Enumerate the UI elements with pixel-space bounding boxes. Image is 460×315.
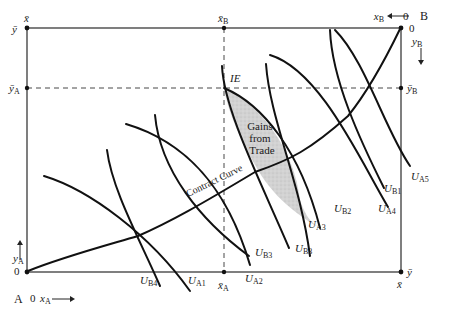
bottom-right-y-bar-label: ȳ	[406, 266, 413, 278]
x-a-axis-label: xA	[39, 292, 51, 306]
ub2-label: UB2	[334, 202, 351, 216]
origin-a-zero-x: 0	[30, 292, 36, 304]
ub3a-label: UB3	[255, 246, 272, 260]
y-bar-b-label: ȳB	[406, 82, 417, 96]
edgeworth-box-diagram: A 0 0 xA yA B 0 0 xB yB ȳ x̄ x̄ ȳ x̄B x̄…	[0, 0, 460, 315]
origin-a-zero-y: 0	[14, 265, 20, 277]
initial-endowment-label: IE	[229, 72, 241, 84]
indifference-curve-ua5	[335, 30, 410, 166]
indifference-curve-ua1	[44, 176, 190, 291]
origin-b-label: B	[420, 9, 428, 23]
bottom-right-corner-dot	[399, 270, 404, 275]
indifference-curve-ub4	[107, 150, 160, 286]
y-bar-b-dot	[399, 86, 403, 90]
top-left-corner-dot	[25, 26, 30, 31]
top-left-y-bar-label: ȳ	[11, 23, 18, 35]
ua2-label: UA2	[245, 272, 263, 286]
top-left-x-bar-label: x̄	[23, 12, 29, 24]
x-bar-b-label: x̄B	[217, 12, 228, 26]
y-bar-a-dot	[25, 86, 29, 90]
ub3b-label: UB3	[295, 242, 312, 256]
y-b-arrow-icon	[418, 48, 424, 65]
origin-a-label: A	[14, 292, 23, 306]
ua1-label: UA1	[188, 274, 206, 288]
origin-a-dot	[25, 270, 30, 275]
y-a-axis-label: yA	[12, 252, 24, 266]
origin-b-zero-x: 0	[403, 10, 409, 22]
x-bar-b-dot	[222, 26, 226, 30]
x-a-arrow-icon	[52, 296, 75, 302]
indifference-curve-ub1	[330, 30, 384, 188]
ub1-label: UB1	[384, 182, 401, 196]
y-bar-a-label: ȳA	[8, 82, 20, 96]
edgeworth-box-frame	[27, 28, 401, 272]
x-bar-a-dot	[222, 270, 226, 274]
x-bar-a-label: x̄A	[217, 279, 229, 293]
origin-b-dot	[399, 26, 404, 31]
gains-label-line-1: Gains	[247, 120, 273, 132]
gains-label-line-2: from	[249, 132, 271, 144]
ua5-label: UA5	[411, 170, 429, 184]
bottom-right-x-bar-label: x̄	[396, 278, 402, 290]
origin-b-zero-y: 0	[409, 22, 415, 34]
gains-label-line-3: Trade	[249, 144, 274, 156]
contract-curve-label: Contract Curve	[184, 162, 244, 199]
x-b-axis-label: xB	[373, 10, 384, 24]
y-b-axis-label: yB	[411, 35, 422, 49]
contract-curve	[28, 29, 400, 271]
